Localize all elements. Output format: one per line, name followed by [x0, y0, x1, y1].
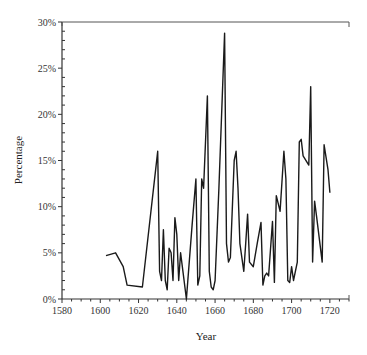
x-tick-label: 1600 [90, 305, 110, 316]
x-tick-label: 1660 [205, 305, 225, 316]
x-tick-label: 1580 [52, 305, 72, 316]
x-tick-label: 1700 [282, 305, 302, 316]
line-chart: 0%5%10%15%20%25%30% 15801600162016401660… [0, 0, 367, 355]
x-tick-label: 1720 [320, 305, 340, 316]
x-tick-label: 1620 [129, 305, 149, 316]
y-tick-label: 5% [43, 247, 56, 258]
x-tick-label: 1640 [167, 305, 187, 316]
x-axis: 15801600162016401660168017001720 [52, 299, 349, 316]
y-axis-title: Percentage [12, 136, 24, 184]
y-tick-label: 20% [38, 109, 56, 120]
y-tick-label: 25% [38, 63, 56, 74]
data-line [106, 33, 330, 299]
x-tick-label: 1680 [243, 305, 263, 316]
y-tick-label: 15% [38, 155, 56, 166]
y-tick-label: 10% [38, 201, 56, 212]
y-tick-label: 0% [43, 294, 56, 305]
y-tick-label: 30% [38, 17, 56, 28]
y-axis: 0%5%10%15%20%25%30% [38, 17, 65, 305]
x-axis-title: Year [196, 330, 217, 342]
